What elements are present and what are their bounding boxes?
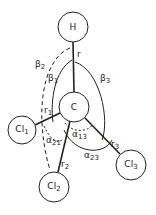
atom-label-cl3: Cl3 bbox=[124, 160, 137, 171]
atom-symbol: Cl bbox=[47, 181, 56, 191]
label-r: r bbox=[77, 50, 81, 59]
label-r1: r1 bbox=[44, 106, 52, 117]
atom-subscript: 2 bbox=[56, 185, 60, 193]
atom-symbol: Cl bbox=[124, 159, 133, 169]
atom-label-c: C bbox=[71, 103, 77, 112]
label-base: r bbox=[77, 49, 81, 59]
label-r2: r2 bbox=[61, 160, 69, 171]
molecule-diagram bbox=[0, 0, 156, 215]
label-sub: 13 bbox=[78, 133, 87, 141]
atom-label-cl2: Cl2 bbox=[47, 182, 60, 193]
atom-symbol: C bbox=[71, 102, 77, 112]
label-sub: 2 bbox=[41, 63, 45, 71]
atom-symbol: Cl bbox=[15, 124, 24, 134]
label-sub: 1 bbox=[48, 109, 52, 117]
atom-subscript: 1 bbox=[24, 128, 28, 136]
label-alpha23: α23 bbox=[84, 151, 99, 162]
label-r3: r3 bbox=[111, 140, 119, 151]
label-sub: 3 bbox=[115, 143, 119, 151]
label-sub: 2 bbox=[65, 163, 69, 171]
label-alpha13: α13 bbox=[72, 130, 87, 141]
label-beta2: β2 bbox=[35, 60, 45, 71]
atom-symbol: H bbox=[70, 22, 77, 32]
atom-subscript: 3 bbox=[133, 163, 137, 171]
label-sub: 1 bbox=[54, 77, 58, 85]
label-sub: 21 bbox=[52, 139, 61, 147]
label-beta1: β1 bbox=[48, 74, 58, 85]
label-alpha21: α21 bbox=[46, 136, 61, 147]
atom-label-h: H bbox=[70, 23, 77, 32]
label-beta3: β3 bbox=[100, 74, 110, 85]
atom-label-cl1: Cl1 bbox=[15, 125, 28, 136]
label-sub: 23 bbox=[90, 154, 99, 162]
label-sub: 3 bbox=[106, 77, 110, 85]
bond-c-h bbox=[73, 42, 74, 92]
